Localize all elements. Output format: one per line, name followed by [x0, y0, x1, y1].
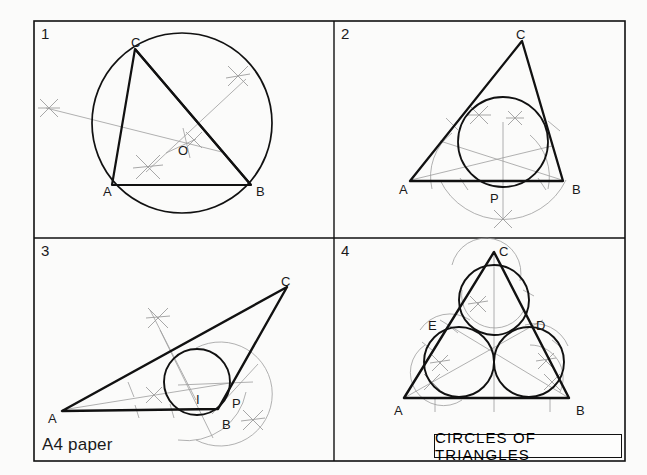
- panel-4-label-c: C: [499, 245, 508, 258]
- panel-number-3: 3: [41, 243, 49, 258]
- panel-3-label-c: C: [281, 275, 290, 288]
- panel-3-drawing: [62, 287, 287, 446]
- panel-1-chord-cb: [135, 49, 251, 185]
- panel-3-label-p: P: [232, 397, 241, 410]
- panel-3-label-a: A: [48, 412, 57, 425]
- technical-drawing-canvas: [0, 0, 647, 475]
- panel-number-1: 1: [41, 26, 49, 41]
- panel-2-arc-crosses: [467, 106, 524, 228]
- drawing-sheet: 1 2 3 4 C A B O C A B P C A B I P C A B …: [0, 0, 647, 475]
- panel-3-construction-lines: [62, 310, 272, 446]
- title-block-text: CIRCLES OF TRIANGLES: [435, 429, 621, 463]
- panel-2-drawing: [410, 41, 566, 228]
- paper-size-note: A4 paper: [42, 436, 113, 453]
- panel-1-triangle-abc: [112, 49, 251, 185]
- panel-1-label-b: B: [256, 185, 265, 198]
- panel-1-drawing: [38, 33, 272, 213]
- panel-1-label-a: A: [103, 185, 112, 198]
- panel-3-label-b: B: [222, 418, 231, 431]
- panel-number-2: 2: [341, 26, 349, 41]
- title-block: CIRCLES OF TRIANGLES: [434, 434, 622, 458]
- panel-2-label-p: P: [490, 192, 499, 205]
- panel-2-construction-lines: [411, 118, 566, 220]
- panel-number-4: 4: [341, 243, 349, 258]
- panel-4-label-b: B: [576, 404, 585, 417]
- panel-2-label-b: B: [572, 183, 581, 196]
- panel-2-label-a: A: [399, 183, 408, 196]
- panel-2-label-c: C: [516, 28, 525, 41]
- panel-1-construction-lines: [46, 79, 246, 172]
- panel-3-label-i: I: [196, 393, 200, 406]
- panel-4-label-d: D: [536, 319, 545, 332]
- panel-1-label-o: O: [178, 144, 188, 157]
- panel-1-arc-crosses: [38, 66, 250, 179]
- panel-4-label-a: A: [394, 404, 403, 417]
- panel-1-label-c: C: [131, 36, 140, 49]
- panel-3-arc-crosses: [146, 308, 265, 430]
- panel-3-triangle-abc: [62, 287, 287, 411]
- panel-4-circle-right: [494, 327, 564, 397]
- panel-4-label-e: E: [428, 319, 437, 332]
